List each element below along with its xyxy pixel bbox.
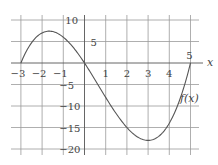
grid-lines [11,15,199,155]
axes [11,15,203,155]
y-tick-label: −10 [59,101,80,112]
x-tick-label: 1 [103,68,109,79]
x-tick-label: −3 [11,68,26,79]
x-tick-label: 3 [145,68,151,79]
y-tick-label: −15 [59,123,80,134]
x-tick-label: 2 [124,68,130,79]
x-axis-label: x [207,56,214,69]
x-tick-label: −2 [32,68,47,79]
series-label-f-of-x: f(x) [179,92,199,105]
x-tick-label: −1 [53,68,68,79]
y-tick-label: −20 [59,144,80,155]
y-tick-label: 10 [65,15,78,26]
y-tick-label: −5 [59,80,74,91]
function-plot: −3−2−112345105−5−10−15−20 x f(x) [0,0,218,165]
x-tick-label: 5 [186,50,192,61]
y-tick-label: 5 [91,37,97,48]
x-tick-label: 4 [166,68,172,79]
